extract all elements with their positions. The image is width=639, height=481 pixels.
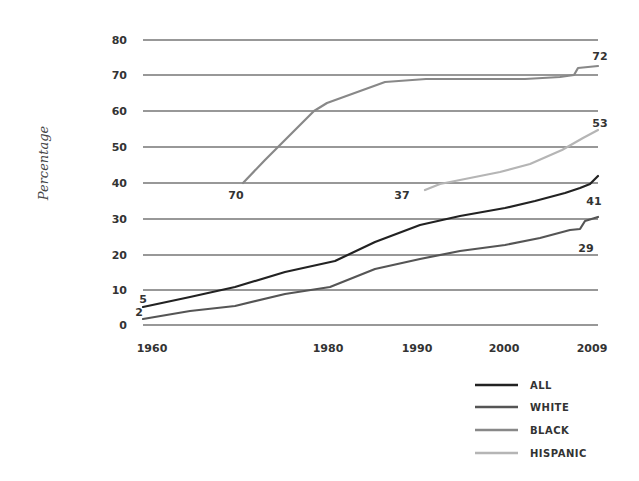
data-labels: 5 2 70 37 72 53 41 29 (135, 50, 607, 319)
y-tick: 80 (112, 34, 128, 47)
series-hispanic (425, 130, 598, 190)
y-axis-label: Percentage (36, 125, 51, 201)
label-all-start: 5 (139, 293, 147, 306)
label-hispanic-end: 53 (592, 117, 607, 130)
label-black-end: 72 (592, 50, 607, 63)
x-tick: 2000 (489, 342, 520, 355)
legend-label: HISPANIC (530, 448, 587, 459)
series-lines (143, 66, 598, 319)
y-tick: 0 (119, 319, 127, 332)
series-white (143, 217, 598, 319)
label-all-end: 41 (586, 195, 601, 208)
label-hispanic-start: 37 (394, 189, 409, 202)
legend-label: BLACK (530, 425, 570, 436)
legend-label: WHITE (530, 402, 569, 413)
x-tick: 1980 (313, 342, 344, 355)
x-tick: 1990 (402, 342, 433, 355)
y-tick: 30 (112, 213, 128, 226)
y-tick: 50 (112, 141, 128, 154)
legend: ALL WHITE BLACK HISPANIC (475, 380, 587, 459)
y-axis-ticks: 0 10 20 30 40 50 60 70 80 (112, 34, 128, 332)
legend-item-black: BLACK (475, 425, 570, 436)
label-white-end: 29 (578, 242, 593, 255)
label-black-start: 70 (228, 189, 244, 202)
y-tick: 60 (112, 105, 128, 118)
y-tick: 40 (112, 177, 128, 190)
y-tick: 20 (112, 249, 128, 262)
label-white-start: 2 (135, 306, 143, 319)
series-black (243, 66, 598, 183)
y-tick: 10 (112, 284, 128, 297)
x-tick: 1960 (137, 342, 168, 355)
x-tick: 2009 (577, 342, 608, 355)
x-axis-ticks: 1960 1980 1990 2000 2009 (137, 342, 608, 355)
series-all (143, 176, 598, 307)
y-tick: 70 (112, 69, 128, 82)
legend-item-all: ALL (475, 380, 552, 391)
gridlines (143, 40, 598, 325)
line-chart: Percentage 0 10 20 30 40 50 60 70 80 196… (0, 0, 639, 481)
legend-item-white: WHITE (475, 402, 569, 413)
legend-item-hispanic: HISPANIC (475, 448, 587, 459)
legend-label: ALL (530, 380, 552, 391)
